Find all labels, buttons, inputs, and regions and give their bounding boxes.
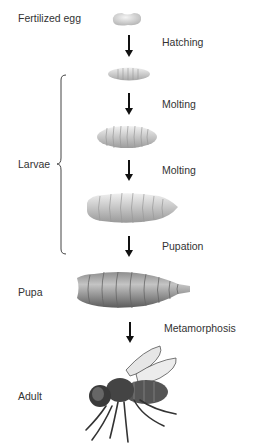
larva-small-icon bbox=[106, 66, 152, 82]
label-fertilized-egg: Fertilized egg bbox=[18, 12, 81, 24]
transition-molting-1: Molting bbox=[162, 98, 196, 110]
transition-molting-2: Molting bbox=[162, 164, 196, 176]
transition-hatching: Hatching bbox=[162, 36, 203, 48]
label-adult: Adult bbox=[18, 390, 42, 402]
arrow-down-icon bbox=[128, 236, 130, 252]
label-larvae: Larvae bbox=[18, 158, 50, 170]
larvae-brace-icon bbox=[56, 74, 68, 256]
arrow-down-icon bbox=[128, 160, 130, 176]
arrow-down-icon bbox=[128, 35, 130, 52]
larva-medium-icon bbox=[95, 124, 159, 150]
adult-fly-icon bbox=[84, 344, 182, 444]
pupa-icon bbox=[74, 270, 192, 310]
transition-metamorphosis: Metamorphosis bbox=[164, 322, 236, 334]
transition-pupation: Pupation bbox=[162, 240, 203, 252]
arrow-down-icon bbox=[128, 93, 130, 110]
larva-large-icon bbox=[84, 191, 180, 225]
label-pupa: Pupa bbox=[18, 286, 43, 298]
arrow-down-icon bbox=[129, 322, 131, 338]
egg-icon bbox=[110, 10, 144, 28]
